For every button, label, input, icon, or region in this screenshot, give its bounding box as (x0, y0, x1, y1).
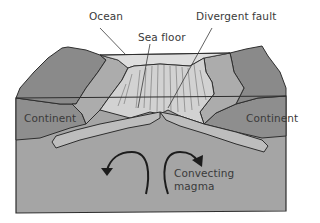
label-divergent-fault: Divergent fault (196, 10, 276, 22)
label-magma: magma (174, 180, 215, 192)
label-sea-floor: Sea floor (138, 31, 186, 43)
label-convecting: Convecting (174, 167, 234, 179)
label-continent-left: Continent (24, 112, 76, 124)
label-ocean: Ocean (89, 10, 123, 22)
ocean-leader-line (100, 28, 126, 55)
label-continent-right: Continent (246, 112, 298, 124)
divergent-fault-diagram: Ocean Sea floor Divergent fault Continen… (0, 0, 320, 223)
